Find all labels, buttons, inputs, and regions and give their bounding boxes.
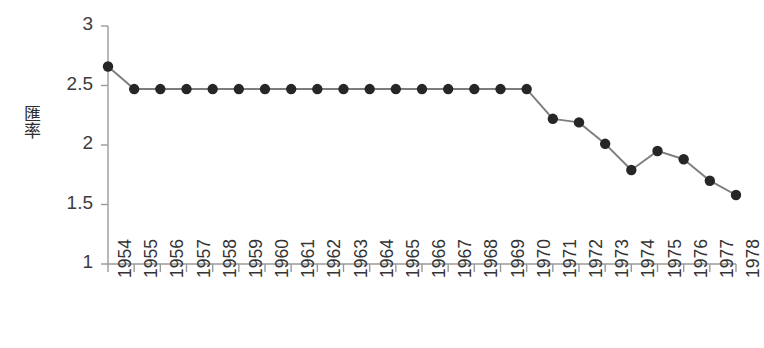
data-point-marker	[312, 84, 322, 94]
data-point-marker	[574, 117, 584, 127]
y-axis-tick-label: 1	[49, 251, 93, 273]
x-axis-tick-label: 1969	[508, 239, 529, 278]
x-axis-tick-label: 1968	[481, 239, 502, 278]
x-axis-tick-label: 1966	[429, 239, 450, 278]
x-axis-tick-label: 1959	[246, 239, 267, 278]
x-axis-tick-label: 1963	[351, 239, 372, 278]
x-axis-tick-label: 1954	[115, 239, 136, 278]
x-axis-tick-label: 1970	[534, 239, 555, 278]
data-point-marker	[260, 84, 270, 94]
x-axis-tick-label: 1958	[220, 239, 241, 278]
y-axis-tick-label: 2	[49, 132, 93, 154]
data-point-marker	[417, 84, 427, 94]
data-point-marker	[678, 154, 688, 164]
y-axis-tick-label: 2.5	[49, 73, 93, 95]
data-point-marker	[155, 84, 165, 94]
x-axis-tick-label: 1978	[743, 239, 764, 278]
x-axis-tick-label: 1962	[324, 239, 345, 278]
x-axis-tick-label: 1972	[586, 239, 607, 278]
data-point-marker	[731, 190, 741, 200]
data-point-marker	[103, 61, 113, 71]
data-point-marker	[207, 84, 217, 94]
data-point-marker	[129, 84, 139, 94]
y-axis-tick-label: 3	[49, 13, 93, 35]
x-axis-tick-label: 1977	[717, 239, 738, 278]
x-axis-tick-label: 1971	[560, 239, 581, 278]
data-point-marker	[521, 84, 531, 94]
x-axis-tick-label: 1973	[612, 239, 633, 278]
x-axis-tick-label: 1957	[194, 239, 215, 278]
data-point-marker	[548, 114, 558, 124]
x-axis-tick-label: 1975	[665, 239, 686, 278]
x-axis-tick-label: 1976	[691, 239, 712, 278]
data-point-marker	[600, 139, 610, 149]
x-axis-tick-label: 1955	[141, 239, 162, 278]
x-axis-tick-label: 1967	[455, 239, 476, 278]
data-point-marker	[443, 84, 453, 94]
data-point-marker	[286, 84, 296, 94]
data-point-marker	[181, 84, 191, 94]
y-axis-tick-label: 1.5	[49, 192, 93, 214]
x-axis-tick-label: 1965	[403, 239, 424, 278]
data-point-marker	[364, 84, 374, 94]
data-point-marker	[626, 165, 636, 175]
data-point-marker	[495, 84, 505, 94]
data-point-marker	[234, 84, 244, 94]
data-point-marker	[652, 146, 662, 156]
x-axis-tick-label: 1961	[298, 239, 319, 278]
data-point-marker	[338, 84, 348, 94]
data-point-marker	[469, 84, 479, 94]
x-axis-tick-label: 1956	[167, 239, 188, 278]
x-axis-tick-label: 1974	[638, 239, 659, 278]
data-point-marker	[705, 176, 715, 186]
x-axis-tick-label: 1964	[377, 239, 398, 278]
data-point-marker	[391, 84, 401, 94]
x-axis-tick-label: 1960	[272, 239, 293, 278]
